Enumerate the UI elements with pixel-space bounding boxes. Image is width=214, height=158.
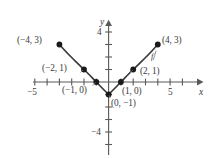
coordinate-plane-svg	[0, 0, 214, 158]
point-label-neg1-0: (−1, 0)	[62, 86, 87, 95]
point-label-0-neg1: (0, −1)	[111, 99, 136, 108]
curve-name-label: f	[151, 52, 153, 61]
data-point-0-neg1	[106, 92, 112, 98]
x-tick-label-5: 5	[168, 88, 173, 97]
point-label-1-0: (1, 0)	[122, 87, 142, 96]
x-axis-label: x	[199, 88, 203, 98]
point-label-neg4-3: (−4, 3)	[17, 36, 42, 45]
graph-figure: y x −5 5 4 −4 (−4, 3) (−2, 1) (−1, 0) (0…	[0, 0, 214, 158]
point-label-4-3: (4, 3)	[162, 36, 182, 45]
y-tick-label-neg4: −4	[91, 128, 101, 137]
y-tick-label-4: 4	[97, 28, 102, 37]
point-label-neg2-1: (−2, 1)	[42, 64, 67, 73]
x-tick-label-neg5: −5	[27, 88, 37, 97]
y-axis-arrow	[105, 20, 112, 26]
data-point-4-3	[155, 42, 161, 48]
leader-f-curve	[153, 51, 156, 61]
data-point-1-0	[118, 79, 124, 85]
x-axis-arrow	[197, 79, 204, 86]
data-point-neg4-3	[57, 42, 63, 48]
y-axis	[105, 20, 112, 155]
point-label-2-1: (2, 1)	[140, 67, 160, 76]
